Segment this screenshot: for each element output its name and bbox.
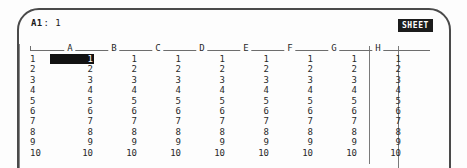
cell-c4[interactable]: 4	[138, 85, 182, 95]
cell-f1[interactable]: 1	[270, 54, 314, 64]
cell-f5[interactable]: 5	[270, 96, 314, 106]
cell-c6[interactable]: 6	[138, 106, 182, 116]
cell-b3[interactable]: 3	[94, 75, 138, 85]
cell-h6[interactable]: 6	[358, 106, 402, 116]
cell-h9[interactable]: 9	[358, 137, 402, 147]
cell-h2[interactable]: 2	[358, 64, 402, 74]
cell-f10[interactable]: 10	[270, 148, 314, 158]
cell-e3[interactable]: 3	[226, 75, 270, 85]
cell-a10[interactable]: 10	[50, 148, 94, 158]
cell-d7[interactable]: 7	[182, 116, 226, 126]
cell-a3[interactable]: 3	[50, 75, 94, 85]
row-header-7[interactable]: 7	[30, 116, 48, 126]
cell-f4[interactable]: 4	[270, 85, 314, 95]
column-header-a[interactable]: A	[64, 43, 75, 53]
cell-f8[interactable]: 8	[270, 127, 314, 137]
cell-h8[interactable]: 8	[358, 127, 402, 137]
cell-h1[interactable]: 1	[358, 54, 402, 64]
cell-e4[interactable]: 4	[226, 85, 270, 95]
column-header-c[interactable]: C	[152, 43, 163, 53]
cell-g3[interactable]: 3	[314, 75, 358, 85]
cell-b7[interactable]: 7	[94, 116, 138, 126]
cell-e6[interactable]: 6	[226, 106, 270, 116]
cell-c3[interactable]: 3	[138, 75, 182, 85]
row-header-1[interactable]: 1	[30, 54, 48, 64]
column-header-h[interactable]: H	[372, 43, 383, 53]
cell-e7[interactable]: 7	[226, 116, 270, 126]
cell-e2[interactable]: 2	[226, 64, 270, 74]
column-header-g[interactable]: G	[328, 43, 339, 53]
cell-d8[interactable]: 8	[182, 127, 226, 137]
column-header-b[interactable]: B	[108, 43, 119, 53]
spreadsheet-grid[interactable]: ABCDEFGH 1111111112222222223333333334444…	[30, 42, 430, 164]
cell-e9[interactable]: 9	[226, 137, 270, 147]
cell-f3[interactable]: 3	[270, 75, 314, 85]
cell-e1[interactable]: 1	[226, 54, 270, 64]
cell-c8[interactable]: 8	[138, 127, 182, 137]
row-header-10[interactable]: 10	[30, 148, 48, 158]
cell-a1[interactable]: 1	[50, 54, 94, 64]
table-row: 666666666	[30, 106, 430, 116]
cell-a9[interactable]: 9	[50, 137, 94, 147]
row-header-2[interactable]: 2	[30, 64, 48, 74]
cell-g7[interactable]: 7	[314, 116, 358, 126]
row-header-6[interactable]: 6	[30, 106, 48, 116]
cell-b8[interactable]: 8	[94, 127, 138, 137]
cell-d4[interactable]: 4	[182, 85, 226, 95]
cell-e5[interactable]: 5	[226, 96, 270, 106]
cell-b4[interactable]: 4	[94, 85, 138, 95]
row-header-9[interactable]: 9	[30, 137, 48, 147]
column-header-d[interactable]: D	[196, 43, 207, 53]
cell-d2[interactable]: 2	[182, 64, 226, 74]
cell-c7[interactable]: 7	[138, 116, 182, 126]
cell-g10[interactable]: 10	[314, 148, 358, 158]
column-header-e[interactable]: E	[240, 43, 251, 53]
cell-d5[interactable]: 5	[182, 96, 226, 106]
cell-c5[interactable]: 5	[138, 96, 182, 106]
cell-a8[interactable]: 8	[50, 127, 94, 137]
cell-f2[interactable]: 2	[270, 64, 314, 74]
cell-h7[interactable]: 7	[358, 116, 402, 126]
cell-a7[interactable]: 7	[50, 116, 94, 126]
row-header-4[interactable]: 4	[30, 85, 48, 95]
cell-h3[interactable]: 3	[358, 75, 402, 85]
cell-g6[interactable]: 6	[314, 106, 358, 116]
cell-a2[interactable]: 2	[50, 64, 94, 74]
cell-g5[interactable]: 5	[314, 96, 358, 106]
cell-g2[interactable]: 2	[314, 64, 358, 74]
row-header-8[interactable]: 8	[30, 127, 48, 137]
column-header-f[interactable]: F	[284, 43, 295, 53]
cell-h10[interactable]: 10	[358, 148, 402, 158]
cell-d3[interactable]: 3	[182, 75, 226, 85]
cell-g4[interactable]: 4	[314, 85, 358, 95]
cell-h5[interactable]: 5	[358, 96, 402, 106]
cell-b5[interactable]: 5	[94, 96, 138, 106]
cell-f6[interactable]: 6	[270, 106, 314, 116]
cell-c1[interactable]: 1	[138, 54, 182, 64]
cell-g1[interactable]: 1	[314, 54, 358, 64]
cell-f7[interactable]: 7	[270, 116, 314, 126]
row-header-3[interactable]: 3	[30, 75, 48, 85]
cell-f9[interactable]: 9	[270, 137, 314, 147]
cell-d1[interactable]: 1	[182, 54, 226, 64]
cell-b6[interactable]: 6	[94, 106, 138, 116]
cell-c2[interactable]: 2	[138, 64, 182, 74]
cell-c10[interactable]: 10	[138, 148, 182, 158]
cell-b9[interactable]: 9	[94, 137, 138, 147]
cell-e10[interactable]: 10	[226, 148, 270, 158]
cell-a5[interactable]: 5	[50, 96, 94, 106]
cell-g9[interactable]: 9	[314, 137, 358, 147]
cell-d9[interactable]: 9	[182, 137, 226, 147]
cell-d6[interactable]: 6	[182, 106, 226, 116]
cell-b2[interactable]: 2	[94, 64, 138, 74]
cell-a4[interactable]: 4	[50, 85, 94, 95]
cell-e8[interactable]: 8	[226, 127, 270, 137]
cell-h4[interactable]: 4	[358, 85, 402, 95]
cell-b10[interactable]: 10	[94, 148, 138, 158]
row-header-5[interactable]: 5	[30, 96, 48, 106]
cell-g8[interactable]: 8	[314, 127, 358, 137]
cell-a6[interactable]: 6	[50, 106, 94, 116]
cell-c9[interactable]: 9	[138, 137, 182, 147]
cell-d10[interactable]: 10	[182, 148, 226, 158]
cell-b1[interactable]: 1	[94, 54, 138, 64]
